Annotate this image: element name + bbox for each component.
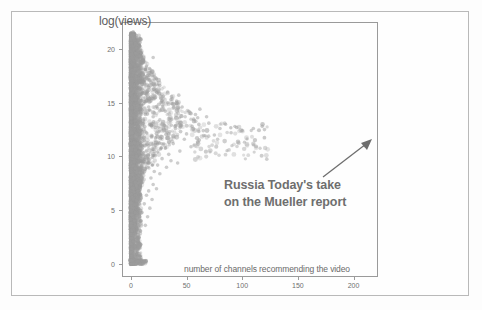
y-tick-label: 5	[99, 207, 115, 214]
x-tick-mark	[131, 277, 132, 280]
y-tick-label: 20	[99, 45, 115, 52]
screenshot-root: log(views) number of channels recommendi…	[0, 0, 482, 310]
y-tick-label: 0	[99, 261, 115, 268]
annotation-label: Russia Today's take on the Mueller repor…	[224, 177, 346, 211]
x-tick-mark	[242, 277, 243, 280]
x-tick-mark	[298, 277, 299, 280]
x-tick-mark	[354, 277, 355, 280]
x-tick-label: 50	[177, 282, 197, 289]
y-tick-label: 10	[99, 153, 115, 160]
y-tick-label: 15	[99, 99, 115, 106]
scatter-plot-figure: log(views) number of channels recommendi…	[0, 0, 482, 310]
annotation-line-2: on the Mueller report	[224, 194, 346, 211]
x-tick-label: 0	[121, 282, 141, 289]
x-tick-label: 100	[232, 282, 252, 289]
annotation-line-1: Russia Today's take	[224, 177, 346, 194]
x-tick-label: 150	[288, 282, 308, 289]
x-tick-mark	[187, 277, 188, 280]
x-tick-label: 200	[344, 282, 364, 289]
annotation-arrow-icon	[320, 136, 376, 180]
